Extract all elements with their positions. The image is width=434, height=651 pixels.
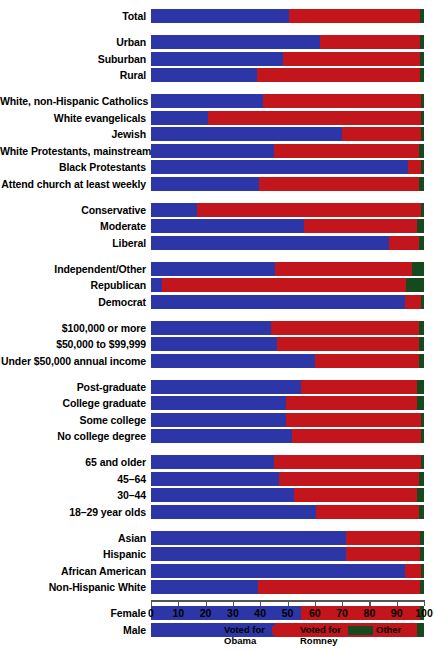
stacked-bar — [151, 321, 424, 335]
row-label: 45–64 — [0, 472, 146, 486]
axis-tick-label: 40 — [254, 607, 266, 619]
row-label: $50,000 to $99,999 — [0, 337, 146, 351]
stacked-bar — [151, 580, 424, 594]
bar-segment-other — [421, 455, 424, 469]
bar-segment-other — [420, 547, 424, 561]
bar-segment-obama — [151, 564, 405, 578]
bar-segment-other — [419, 354, 424, 368]
axis-tick — [342, 600, 343, 606]
row-label: Rural — [0, 68, 146, 82]
bar-segment-other — [419, 505, 424, 519]
bar-segment-romney — [263, 94, 421, 108]
bar-segment-obama — [151, 505, 316, 519]
row-label: Conservative — [0, 203, 146, 217]
bar-segment-obama — [151, 429, 292, 443]
legend-swatch — [272, 626, 297, 635]
row-label: Independent/Other — [0, 262, 146, 276]
stacked-bar — [151, 94, 424, 108]
row-label: White Protestants, mainstream — [0, 144, 146, 158]
row-label: Democrat — [0, 295, 146, 309]
stacked-bar — [151, 111, 424, 125]
row-label: Asian — [0, 531, 146, 545]
axis-tick-label: 0 — [148, 607, 154, 619]
bar-segment-obama — [151, 127, 342, 141]
row-label: Hispanic — [0, 547, 146, 561]
row-label: Republican — [0, 278, 146, 292]
bar-segment-obama — [151, 321, 271, 335]
bar-segment-other — [421, 413, 424, 427]
row-label: White evangelicals — [0, 111, 146, 125]
legend-label: Voted for Obama — [224, 625, 265, 646]
stacked-bar — [151, 278, 424, 292]
row-label: Total — [0, 9, 146, 23]
bar-segment-other — [421, 160, 424, 174]
bar-segment-other — [419, 236, 424, 250]
row-label: Under $50,000 annual income — [0, 354, 146, 368]
row-label: Attend church at least weekly — [0, 177, 146, 191]
chart-row: 45–64 — [0, 472, 434, 486]
chart-row: Total — [0, 9, 434, 23]
stacked-bar — [151, 455, 424, 469]
bar-segment-obama — [151, 35, 320, 49]
bar-segment-romney — [286, 413, 422, 427]
row-label: Post-graduate — [0, 380, 146, 394]
row-label: 65 and older — [0, 455, 146, 469]
stacked-bar — [151, 429, 424, 443]
bar-segment-other — [419, 144, 424, 158]
bar-segment-romney — [342, 127, 421, 141]
bar-segment-other — [421, 203, 424, 217]
axis-tick-label: 90 — [391, 607, 403, 619]
bar-segment-romney — [162, 278, 406, 292]
bar-segment-romney — [320, 35, 420, 49]
stacked-bar — [151, 396, 424, 410]
bar-segment-other — [406, 278, 424, 292]
bar-segment-romney — [257, 68, 419, 82]
stacked-bar — [151, 177, 424, 191]
chart-row: Attend church at least weekly — [0, 177, 434, 191]
legend-item: Voted for Obama — [196, 625, 265, 646]
bar-segment-obama — [151, 278, 162, 292]
bar-segment-obama — [151, 219, 304, 233]
bar-segment-other — [421, 429, 424, 443]
bar-segment-romney — [258, 580, 420, 594]
chart-row: Republican — [0, 278, 434, 292]
bar-segment-other — [420, 52, 424, 66]
bar-segment-romney — [197, 203, 421, 217]
axis-tick — [288, 600, 289, 606]
row-label: Some college — [0, 413, 146, 427]
stacked-bar — [151, 564, 424, 578]
stacked-bar — [151, 160, 424, 174]
bar-segment-other — [419, 337, 424, 351]
bar-segment-other — [421, 295, 424, 309]
bar-segment-obama — [151, 455, 274, 469]
x-axis: 0102030405060708090100 — [151, 600, 424, 608]
legend-item: Voted for Romney — [272, 625, 341, 646]
bar-segment-obama — [151, 472, 279, 486]
stacked-bar — [151, 472, 424, 486]
bar-segment-romney — [271, 321, 418, 335]
stacked-bar — [151, 380, 424, 394]
stacked-bar — [151, 413, 424, 427]
bar-segment-obama — [151, 295, 405, 309]
row-label: 30–44 — [0, 488, 146, 502]
bar-segment-romney — [277, 337, 419, 351]
bar-segment-romney — [405, 564, 421, 578]
chart-row: Moderate — [0, 219, 434, 233]
bar-segment-other — [420, 9, 424, 23]
bar-segment-romney — [315, 354, 419, 368]
bar-segment-romney — [259, 177, 419, 191]
axis-tick — [315, 600, 316, 606]
stacked-bar-chart: TotalUrbanSuburbanRuralWhite, non-Hispan… — [0, 0, 434, 651]
bar-segment-romney — [274, 455, 421, 469]
bar-segment-other — [417, 219, 424, 233]
chart-row: Urban — [0, 35, 434, 49]
chart-row: Rural — [0, 68, 434, 82]
chart-row: College graduate — [0, 396, 434, 410]
stacked-bar — [151, 144, 424, 158]
chart-row: White Protestants, mainstream — [0, 144, 434, 158]
axis-tick-label: 30 — [227, 607, 239, 619]
row-label: Male — [0, 623, 146, 637]
axis-tick — [151, 600, 152, 606]
bar-segment-other — [417, 380, 424, 394]
bar-segment-obama — [151, 380, 301, 394]
